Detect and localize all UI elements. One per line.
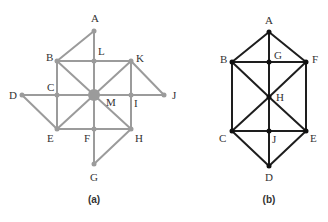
edge-C-H [232, 97, 269, 131]
node-D [20, 93, 25, 98]
node-E [304, 129, 309, 134]
edge-A-B [232, 32, 269, 62]
node-J [162, 93, 167, 98]
edge-E-M [57, 95, 94, 129]
node-label-D: D [265, 171, 273, 183]
edge-D-E [22, 95, 57, 129]
edge-K-M [94, 61, 131, 95]
node-L [92, 59, 97, 64]
edge-C-D [232, 131, 269, 166]
node-I [129, 93, 134, 98]
node-G [92, 162, 97, 167]
edge-B-M [57, 61, 94, 95]
graph-a: ABLKDCMIJEFHG (a) [9, 12, 177, 205]
node-M [88, 89, 100, 101]
node-F [92, 127, 97, 132]
node-H [267, 95, 272, 100]
edge-A-B [57, 31, 94, 61]
node-label-E: E [310, 132, 317, 144]
edge-F-H [269, 62, 306, 97]
node-label-K: K [136, 52, 144, 64]
node-label-H: H [276, 91, 284, 103]
node-label-C: C [219, 132, 226, 144]
node-label-A: A [91, 12, 99, 24]
node-A [92, 29, 97, 34]
node-B [230, 60, 235, 65]
edge-G-H [94, 129, 131, 164]
graph-b-caption: (b) [263, 194, 276, 205]
node-G [267, 60, 272, 65]
node-label-E: E [47, 132, 54, 144]
graph-b: ABGFHCJED (b) [219, 14, 318, 205]
node-label-J: J [172, 89, 177, 101]
edge-E-H [269, 97, 306, 131]
node-B [55, 59, 60, 64]
node-label-B: B [46, 51, 53, 63]
node-label-L: L [98, 45, 105, 57]
node-C [230, 129, 235, 134]
node-E [55, 127, 60, 132]
edge-B-H [232, 62, 269, 97]
node-label-B: B [220, 53, 227, 65]
node-label-F: F [84, 132, 90, 144]
node-F [304, 60, 309, 65]
edge-K-J [131, 61, 164, 95]
node-label-D: D [9, 89, 17, 101]
diagram-canvas: ABLKDCMIJEFHG (a) ABGFHCJED (b) [0, 0, 328, 222]
node-A [267, 30, 272, 35]
graph-a-caption: (a) [88, 194, 100, 205]
node-K [129, 59, 134, 64]
node-label-F: F [312, 53, 318, 65]
node-D [267, 164, 272, 169]
node-label-I: I [134, 97, 138, 109]
node-label-G: G [90, 171, 98, 183]
node-label-G: G [274, 49, 282, 61]
node-label-M: M [106, 96, 116, 108]
node-C [55, 93, 60, 98]
node-J [267, 129, 272, 134]
node-label-J: J [272, 133, 277, 145]
node-label-H: H [135, 132, 143, 144]
node-H [129, 127, 134, 132]
node-label-C: C [47, 81, 54, 93]
node-label-A: A [265, 14, 273, 26]
